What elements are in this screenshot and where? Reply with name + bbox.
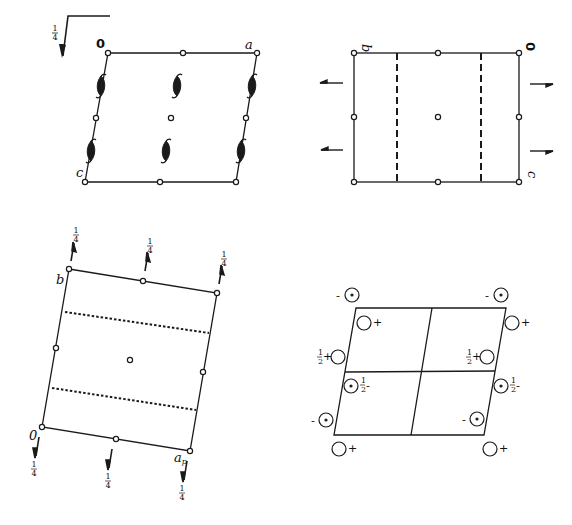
svg-text:-: - [336,289,340,302]
svg-text:+: + [348,442,357,455]
panel-bottom-right: - + 12 + 12 - - + - + 12 + 12 - [311,288,530,456]
space-group-diagrams: 1 4 0 a c [0,0,572,525]
svg-text:+: + [323,350,332,363]
svg-text:+: + [472,350,481,363]
axis-a-label: a [245,37,253,52]
svg-text:1: 1 [73,226,78,235]
inversion-centers [351,50,521,184]
glide-plane-dotted [65,312,209,333]
svg-text:4: 4 [52,33,57,42]
axis-a-label: ap [174,450,187,466]
origin-label: 0 [96,36,105,51]
svg-text:-: - [485,289,489,302]
svg-text:-: - [462,413,466,426]
svg-text:4: 4 [31,469,36,478]
svg-text:+: + [373,316,382,329]
panel-top-right: b 0 c [320,42,553,185]
svg-text:4: 4 [147,246,152,255]
svg-text:1: 1 [52,24,57,33]
panel-top-left: 1 4 0 a c [52,16,260,185]
svg-text:1: 1 [147,237,152,246]
svg-text:1: 1 [31,460,36,469]
origin-label: 0 [29,428,37,443]
svg-text:1: 1 [221,250,226,259]
origin-label: 0 [523,42,538,51]
svg-text:+: + [499,442,508,455]
svg-text:-: - [516,379,520,392]
svg-text:-: - [311,414,315,427]
axis-b-label: b [56,272,64,287]
svg-text:-: - [366,379,370,392]
svg-text:4: 4 [105,481,110,490]
cell-midline-horizontal [345,371,495,372]
inversion-centers [82,50,259,184]
svg-text:4: 4 [179,493,184,502]
panel-bottom-left: 14 14 14 14 14 14 b 0 ap [29,226,227,502]
inversion-centers [39,266,219,453]
glide-height-label: 1 4 [52,24,58,42]
glide-plane-dotted [52,388,196,410]
svg-text:+: + [521,316,530,329]
svg-text:4: 4 [221,259,226,268]
svg-text:1: 1 [179,484,184,493]
axis-c-label: c [525,171,540,179]
svg-text:1: 1 [105,472,110,481]
svg-text:4: 4 [73,235,78,244]
axis-b-label: b [359,44,374,52]
axis-c-label: c [76,165,84,180]
